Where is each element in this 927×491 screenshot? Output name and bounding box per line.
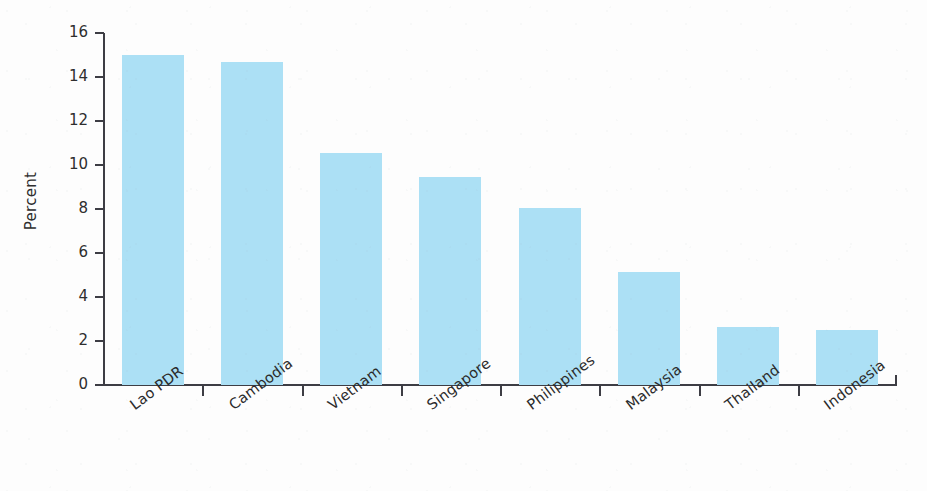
x-axis-tick xyxy=(699,386,701,396)
x-axis-tick xyxy=(599,386,601,396)
y-axis-tick xyxy=(95,296,104,298)
bar xyxy=(122,55,184,385)
y-axis-tick xyxy=(95,32,104,34)
y-axis-tick-label: 8 xyxy=(50,199,88,217)
y-axis-tick-label: 10 xyxy=(50,155,88,173)
y-axis-tick-label: 4 xyxy=(50,287,88,305)
y-axis-tick-label: 0 xyxy=(50,375,88,393)
y-axis-tick-label: 2 xyxy=(50,331,88,349)
y-axis-tick-label: 14 xyxy=(50,67,88,85)
y-axis-tick xyxy=(95,340,104,342)
y-axis-tick xyxy=(95,252,104,254)
y-axis-tick-label: 16 xyxy=(50,23,88,41)
x-axis-tick xyxy=(895,375,897,386)
y-axis-tick xyxy=(95,208,104,210)
bar xyxy=(419,177,481,385)
x-axis-tick xyxy=(202,386,204,396)
y-axis-title: Percent xyxy=(22,146,40,256)
bar-chart: Percent 0246810121416 Lao PDRCambodiaVie… xyxy=(0,0,927,491)
y-axis-tick-label: 6 xyxy=(50,243,88,261)
x-axis-tick xyxy=(500,386,502,396)
y-axis-tick xyxy=(95,164,104,166)
x-axis-tick xyxy=(103,375,105,386)
x-axis-tick xyxy=(401,386,403,396)
y-axis-tick xyxy=(95,120,104,122)
bar xyxy=(320,153,382,385)
y-axis-tick xyxy=(95,76,104,78)
y-axis-tick-label: 12 xyxy=(50,111,88,129)
x-axis-tick xyxy=(302,386,304,396)
bar xyxy=(221,62,283,385)
bar xyxy=(519,208,581,385)
x-axis-tick xyxy=(798,386,800,396)
